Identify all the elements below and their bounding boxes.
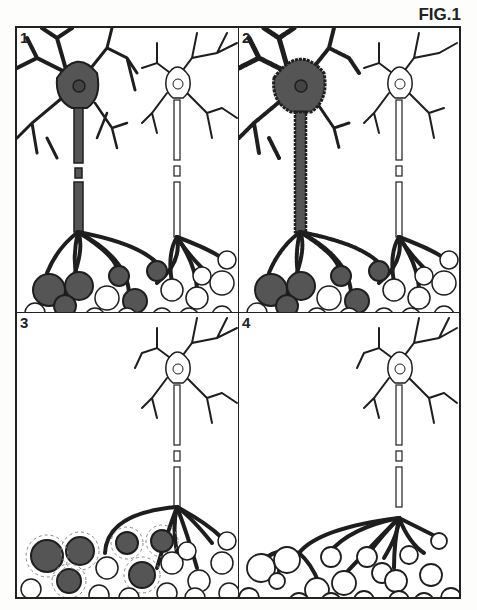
- figure-label: FIG.1: [418, 5, 461, 25]
- panel-1: 1: [17, 28, 239, 313]
- panel-4: 4: [239, 313, 459, 597]
- figure-frame: 1: [15, 26, 461, 599]
- panel-4-illustration: [239, 313, 459, 597]
- panel-number: 2: [242, 29, 250, 46]
- panel-3-illustration: [17, 313, 239, 597]
- panel-2: 2: [239, 28, 459, 313]
- panel-number: 4: [242, 314, 250, 331]
- panel-2-illustration: [239, 28, 459, 313]
- panel-3: 3: [17, 313, 239, 597]
- panel-number: 3: [20, 314, 28, 331]
- panel-1-illustration: [17, 28, 239, 313]
- panel-number: 1: [20, 29, 28, 46]
